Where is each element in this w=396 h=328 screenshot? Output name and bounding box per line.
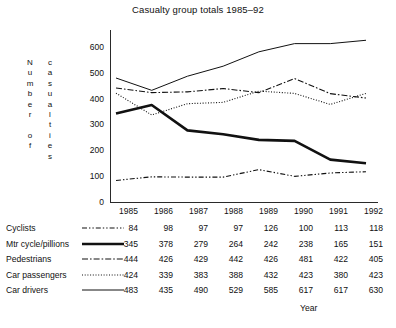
plot-area [110,30,378,202]
x-tick-label: 1988 [203,206,243,216]
table-cell: 424 [108,270,138,280]
table-cell: 97 [178,223,208,233]
table-cell: 97 [213,223,243,233]
table-cell: 264 [213,239,243,249]
series-line-car-drivers [116,40,366,90]
x-tick-label: 1989 [238,206,278,216]
table-row: Mtr cycle/pillions3453782792642422381651… [4,238,394,254]
data-table: 19851986198719881989199019911992Cyclists… [4,222,394,300]
series-lines [110,30,378,202]
table-cell: 585 [248,285,278,295]
series-label: Mtr cycle/pillions [6,239,69,249]
chart-title: Casualty group totals 1985–92 [0,4,396,15]
series-line-mtr-cycle-pillions [116,105,366,163]
table-cell: 165 [318,239,348,249]
table-cell: 339 [143,270,173,280]
y-tick-label: 300 [74,119,104,129]
series-label: Car drivers [6,285,48,295]
series-line-cyclists [116,170,366,181]
table-row: Car passengers424339383388432423380423 [4,269,394,285]
table-cell: 380 [318,270,348,280]
series-line-car-passengers [116,91,366,115]
table-cell: 242 [248,239,278,249]
table-cell: 422 [318,254,348,264]
series-line-pedestrians [116,79,366,99]
y-tick-label: 200 [74,145,104,155]
table-cell: 113 [318,223,348,233]
y-tick-label: 0 [74,197,104,207]
table-cell: 483 [108,285,138,295]
table-cell: 84 [108,223,138,233]
table-cell: 100 [283,223,313,233]
table-cell: 426 [248,254,278,264]
table-cell: 432 [248,270,278,280]
table-cell: 426 [143,254,173,264]
table-row: Car drivers483435490529585617617630 [4,284,394,300]
table-cell: 435 [143,285,173,295]
series-label: Pedestrians [6,254,51,264]
y-tick-label: 600 [74,42,104,52]
table-cell: 444 [108,254,138,264]
table-cell: 630 [353,285,383,295]
table-cell: 529 [213,285,243,295]
x-tick-label: 1991 [308,206,348,216]
x-tick-label: 1987 [168,206,208,216]
y-axis-label-line-2: c a s u a l t i e s [44,58,56,162]
y-axis-label-line-1: N u m b e r o f [24,58,36,152]
x-axis-caption: Year [300,303,317,313]
table-cell: 617 [318,285,348,295]
table-cell: 442 [213,254,243,264]
y-tick-label: 100 [74,171,104,181]
y-tick-label: 500 [74,68,104,78]
table-cell: 126 [248,223,278,233]
table-cell: 279 [178,239,208,249]
table-row: Pedestrians444426429442426481422405 [4,253,394,269]
table-cell: 238 [283,239,313,249]
table-cell: 429 [178,254,208,264]
table-cell: 388 [213,270,243,280]
table-cell: 98 [143,223,173,233]
table-cell: 151 [353,239,383,249]
x-tick-label: 1986 [133,206,173,216]
x-axis-line [110,202,378,203]
table-cell: 345 [108,239,138,249]
table-cell: 118 [353,223,383,233]
table-cell: 378 [143,239,173,249]
x-tick-label: 1990 [273,206,313,216]
table-cell: 383 [178,270,208,280]
chart-page: Casualty group totals 1985–92 N u m b e … [0,0,396,328]
x-tick-label: 1985 [98,206,138,216]
series-label: Car passengers [6,270,67,280]
table-cell: 490 [178,285,208,295]
series-label: Cyclists [6,223,36,233]
table-cell: 423 [283,270,313,280]
x-tick-label: 1992 [343,206,383,216]
table-cell: 423 [353,270,383,280]
table-cell: 481 [283,254,313,264]
y-tick-label: 400 [74,94,104,104]
table-row: Cyclists84989797126100113118 [4,222,394,238]
table-cell: 617 [283,285,313,295]
table-cell: 405 [353,254,383,264]
